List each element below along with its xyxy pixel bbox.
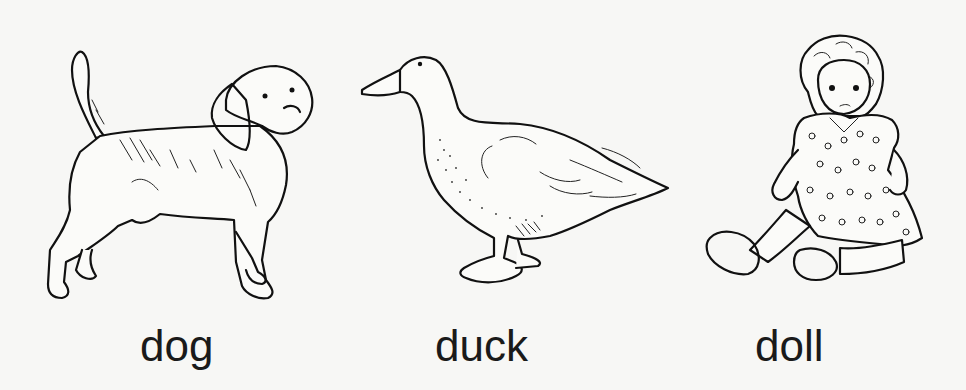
dog-figure: dog [0,0,330,390]
doll-label: doll [755,324,824,368]
dog-illustration [0,0,330,310]
duck-illustration [340,0,680,310]
duck-label: duck [435,324,528,368]
doll-figure: doll [690,0,966,390]
dog-label: dog [140,324,213,368]
duck-figure: duck [340,0,680,390]
doll-illustration [690,0,966,310]
